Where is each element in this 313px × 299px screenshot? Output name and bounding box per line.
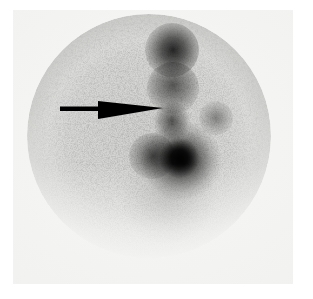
screenshot-root bbox=[0, 0, 313, 299]
arrow-head-shape bbox=[98, 101, 163, 119]
scintigram-photo bbox=[13, 10, 293, 284]
pointer-arrow bbox=[13, 10, 293, 284]
arrow-tail-shape bbox=[60, 107, 100, 112]
